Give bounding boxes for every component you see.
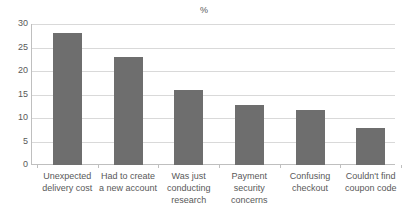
x-tick-mark <box>401 165 402 168</box>
y-axis-tick-labels: 051015202530 <box>0 24 28 165</box>
bar-chart: % 051015202530 Unexpected delivery costH… <box>0 0 408 218</box>
x-axis-category-labels: Unexpected delivery costHad to create a … <box>31 170 395 216</box>
bars-layer <box>31 24 395 165</box>
x-category-label: Confusing checkout <box>280 170 341 194</box>
y-tick-label-20: 20 <box>2 66 28 75</box>
bar <box>174 90 203 165</box>
x-tick-mark <box>280 165 281 168</box>
bar <box>235 105 264 165</box>
y-tick-label-5: 5 <box>2 137 28 146</box>
y-tick-label-30: 30 <box>2 19 28 28</box>
x-category-label: Unexpected delivery cost <box>37 170 98 194</box>
x-axis-tick-marks <box>31 165 395 169</box>
bar <box>296 110 325 165</box>
bar <box>53 33 82 165</box>
x-tick-mark <box>37 165 38 168</box>
x-tick-mark <box>340 165 341 168</box>
y-tick-label-15: 15 <box>2 90 28 99</box>
x-tick-mark <box>98 165 99 168</box>
y-tick-label-25: 25 <box>2 43 28 52</box>
x-tick-mark <box>219 165 220 168</box>
x-tick-mark <box>158 165 159 168</box>
bar <box>114 57 143 165</box>
x-category-label: Had to create a new account <box>98 170 159 194</box>
y-tick-label-0: 0 <box>2 160 28 169</box>
chart-title: % <box>0 5 408 15</box>
x-category-label: Couldn't find coupon code <box>340 170 401 194</box>
bar <box>356 128 385 165</box>
y-tick-label-10: 10 <box>2 113 28 122</box>
x-category-label: Payment security concerns <box>219 170 280 206</box>
x-category-label: Was just conducting research <box>158 170 219 206</box>
